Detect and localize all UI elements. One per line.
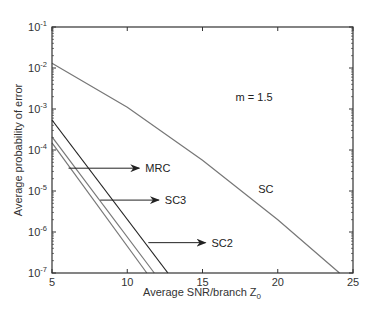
y-axis-label: Average probability of error [12,83,24,216]
curve-sc2 [52,120,168,273]
chart: m = 1.5SCMRCSC3SC2 10-110-210-310-410-51… [0,0,377,309]
curve-mrc [52,143,147,273]
y-tick-label: 10-6 [28,224,47,238]
y-tick-label: 10-3 [28,101,47,115]
y-tick-labels: 10-110-210-310-410-510-610-7 [28,19,47,279]
label-sc3: SC3 [165,194,186,206]
annotation-m-1-5: m = 1.5 [236,91,273,103]
annotations: m = 1.5SCMRCSC3SC2 [69,91,274,249]
y-tick-label: 10-4 [28,142,47,156]
x-tick-label: 20 [272,276,284,288]
x-tick-label: 25 [347,276,359,288]
annotation-sc: SC [258,183,273,195]
y-tick-label: 10-7 [28,265,47,279]
axis-ticks [52,27,353,273]
label-sc2: SC2 [212,237,233,249]
y-tick-label: 10-5 [28,183,47,197]
curve-sc3 [52,137,154,273]
x-axis-label: Average SNR/branch Z0 [143,286,262,301]
x-tick-label: 5 [49,276,55,288]
x-tick-label: 10 [121,276,133,288]
label-mrc: MRC [145,162,170,174]
y-tick-label: 10-1 [28,19,47,33]
plot-frame [52,27,353,273]
y-tick-label: 10-2 [28,60,47,74]
